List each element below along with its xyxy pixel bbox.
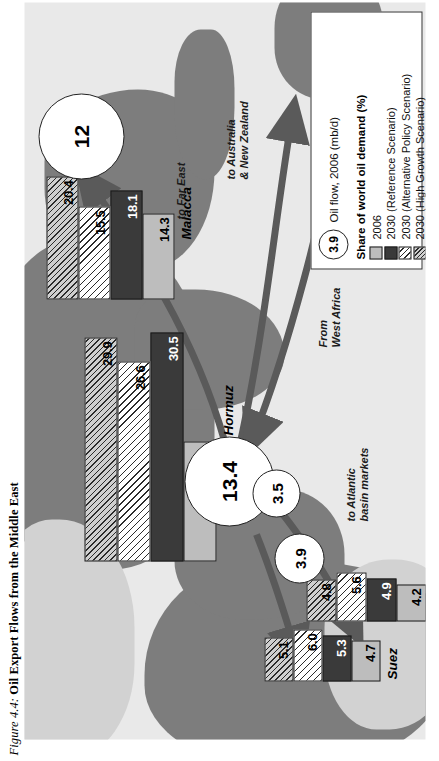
figure-caption: Figure 4.4: Oil Export Flows from the Mi… (6, 482, 21, 755)
figure-page: Figure 4.4: Oil Export Flows from the Mi… (0, 0, 439, 761)
bar-malacca-reference[interactable]: 18.1 (110, 190, 142, 299)
bar-group-suez: 4.7 5.3 6.0 5.1 Suez (264, 561, 390, 681)
legend-label-2006: 2006 (370, 215, 382, 239)
legend-label-high-growth: 2030 (High Growth Scenario) (413, 97, 425, 239)
bar-group-label-suez: Suez (384, 647, 399, 679)
legend-circle-sample: 3.9 (318, 229, 348, 259)
figure-title: Oil Export Flows from the Middle East (6, 482, 20, 695)
legend-circle-value: 3.9 (326, 236, 340, 253)
share-circle-malacca-value: 12 (69, 124, 93, 147)
bar-group-hormuz: 16.0 30.5 26.6 29.9 Hormuz (84, 301, 216, 561)
bar-hormuz-reference[interactable]: 30.5 (150, 332, 183, 561)
legend-series-heading: Share of world oil demand (%) (354, 21, 366, 259)
annotation-to-atlantic-basin-markets: to Atlantic basin markets (344, 447, 370, 521)
bar-value-malacca-2006: 14.3 (156, 217, 171, 242)
legend-item-2006: 2006 (369, 21, 382, 259)
legend-circle-row: 3.9 Oil flow, 2006 (mb/d) (318, 21, 348, 259)
bar-value-malacca-alternative: 15.5 (92, 210, 107, 235)
bar-hormuz-alternative[interactable]: 26.6 (117, 361, 150, 561)
annotation-to-australia-new-zealand: to Australia & New Zealand (224, 101, 250, 179)
legend-item-high-growth: 2030 (High Growth Scenario) (413, 21, 426, 259)
legend-circle-caption: Oil flow, 2006 (mb/d) (327, 117, 339, 222)
bar-malacca-alternative[interactable]: 15.5 (78, 206, 110, 299)
bar-value-suez-high-growth: 5.1 (275, 641, 290, 658)
bar-suez-alternative[interactable]: 6.0 (293, 629, 322, 681)
legend-swatch-reference (384, 246, 397, 259)
bar-bab-2006[interactable]: 4.2 (396, 584, 425, 621)
bar-suez-2006[interactable]: 4.7 (351, 640, 380, 681)
map-plate: 16.0 30.5 26.6 29.9 Hormuz 14.3 (24, 2, 425, 739)
legend-item-alternative: 2030 (Alternative Policy Scenario) (398, 21, 411, 259)
legend-label-alternative: 2030 (Alternative Policy Scenario) (399, 73, 411, 239)
share-circle-malacca[interactable]: 12 (38, 93, 124, 179)
legend-swatch-alternative (398, 246, 411, 259)
bar-value-suez-reference: 5.3 (333, 639, 348, 656)
annotation-from-west-africa: From West Africa (316, 287, 342, 347)
share-circle-hormuz-value: 13.4 (217, 461, 241, 502)
figure-number: Figure 4.4: (6, 697, 20, 755)
share-circle-bab-el-mandab-value: 3.5 (268, 483, 285, 504)
share-circle-suez[interactable]: 3.9 (274, 533, 324, 583)
bar-value-malacca-high-growth: 20.4 (60, 180, 75, 205)
bar-value-hormuz-high-growth: 29.9 (99, 341, 114, 366)
bar-value-hormuz-reference: 30.5 (165, 336, 180, 361)
share-circle-suez-value: 3.9 (291, 548, 308, 569)
legend-item-reference: 2030 (Reference Scenario) (384, 21, 397, 259)
bar-value-bab-2006: 4.2 (408, 588, 423, 605)
legend: 3.9 Oil flow, 2006 (mb/d) Share of world… (310, 11, 422, 269)
bar-value-suez-2006: 4.7 (362, 644, 377, 661)
legend-swatch-high-growth (413, 246, 426, 259)
annotation-to-far-east: to Far East (174, 162, 187, 219)
bar-value-malacca-reference: 18.1 (124, 194, 139, 219)
bar-malacca-2006[interactable]: 14.3 (142, 213, 174, 299)
bar-hormuz-high-growth[interactable]: 29.9 (84, 337, 117, 561)
bar-suez-reference[interactable]: 5.3 (322, 635, 351, 681)
share-circle-bab-el-mandab[interactable]: 3.5 (252, 469, 300, 517)
rotated-figure-canvas: Figure 4.4: Oil Export Flows from the Mi… (0, 0, 439, 761)
bar-value-hormuz-alternative: 26.6 (132, 365, 147, 390)
bar-group-label-hormuz: Hormuz (220, 385, 235, 435)
bar-malacca-high-growth[interactable]: 20.4 (46, 176, 78, 299)
bar-value-suez-alternative: 6.0 (304, 633, 319, 650)
legend-swatch-2006 (369, 246, 382, 259)
bar-suez-high-growth[interactable]: 5.1 (264, 637, 293, 681)
legend-label-reference: 2030 (Reference Scenario) (384, 107, 396, 239)
